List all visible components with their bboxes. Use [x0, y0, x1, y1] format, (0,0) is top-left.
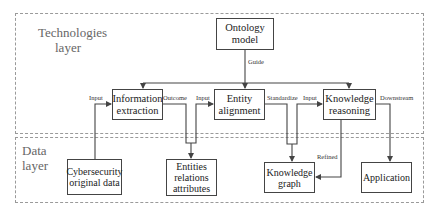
knowledge-graph-node: Knowledge graph — [264, 162, 315, 193]
entity-alignment-node: Entity alignment — [214, 89, 265, 120]
outcome-label: Outcome — [163, 94, 187, 102]
information-extraction-node: Information extraction — [112, 89, 163, 120]
knowledge-reasoning-node: Knowledge reasoning — [323, 89, 376, 120]
cybersecurity-data-node: Cybersecurity original data — [67, 159, 122, 195]
input-label-2: Input — [196, 94, 210, 102]
input-label-3: Input — [303, 94, 317, 102]
refined-label: Refined — [317, 153, 338, 161]
downstream-label: Downstream — [380, 94, 413, 102]
ontology-model-node: Ontology model — [216, 18, 274, 50]
guide-label: Guide — [248, 58, 264, 66]
input-label-1: Input — [89, 94, 103, 102]
standardize-label: Standardize — [267, 94, 298, 102]
application-node: Application — [361, 162, 412, 193]
entities-relations-attributes-node: Entities relations attributes — [166, 159, 217, 196]
